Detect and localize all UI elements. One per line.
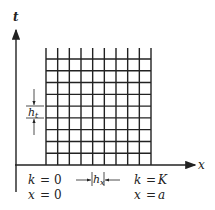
right-boundary-labels: k = K x = a: [134, 173, 168, 202]
right-k-val: K: [157, 173, 168, 187]
ht-annotation: ht: [26, 89, 44, 135]
t-axis-label: t: [13, 10, 19, 24]
left-k-var: k: [28, 173, 35, 187]
hx-annotation: hx: [76, 172, 120, 187]
right-k-eq: =: [146, 173, 156, 187]
x-axis-label: x: [198, 158, 205, 172]
mesh-grid: [46, 48, 151, 165]
ht-label: ht: [28, 106, 39, 120]
left-x-var: x: [28, 188, 35, 202]
right-x-eq: =: [146, 188, 156, 202]
left-x-eq: =: [40, 188, 50, 202]
hx-label: hx: [93, 173, 105, 187]
finite-difference-grid-diagram: t x ht hx k = 0 x = 0 k = K x = a: [0, 0, 215, 210]
right-x-val: a: [158, 188, 165, 202]
left-boundary-labels: k = 0 x = 0: [28, 173, 62, 202]
right-k-var: k: [134, 173, 141, 187]
left-x-val: 0: [54, 188, 62, 202]
left-k-val: 0: [54, 173, 62, 187]
left-k-eq: =: [40, 173, 50, 187]
right-x-var: x: [134, 188, 141, 202]
